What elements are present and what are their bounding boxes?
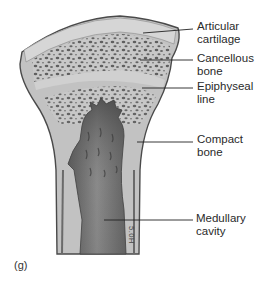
label-compact-bone: Compact bone xyxy=(197,133,243,158)
label-medullary-cavity: Medullary cavity xyxy=(196,212,246,237)
label-cancellous-bone: Cancellous bone xyxy=(197,52,254,77)
label-epiphyseal-line: Epiphyseal line xyxy=(197,80,253,105)
panel-label: (g) xyxy=(14,259,27,271)
bone-structure-diagram: Articular cartilage Cancellous bone Epip… xyxy=(0,0,266,282)
artist-initials: 5.0H xyxy=(127,226,136,244)
compact-bone-edge-left xyxy=(62,170,63,254)
label-articular-cartilage: Articular cartilage xyxy=(197,20,240,45)
